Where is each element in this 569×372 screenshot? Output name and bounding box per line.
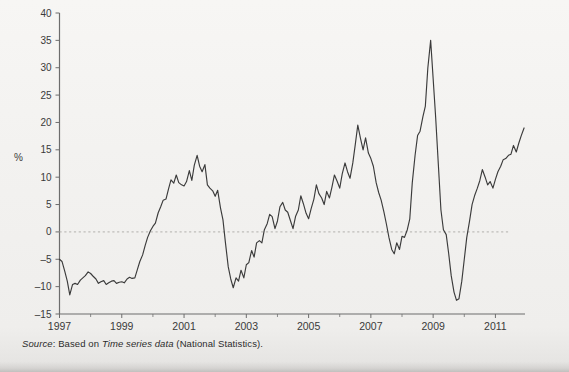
y-tick-label: 30	[40, 62, 52, 73]
data-series-line	[60, 40, 525, 300]
source-label: Source	[22, 338, 53, 349]
x-tick-label: 2001	[172, 320, 196, 330]
x-tick-label: 2003	[235, 320, 259, 330]
source-publisher: (National Statistics).	[174, 338, 263, 349]
y-axis-ticks: –15–10–50510152025303540	[35, 8, 60, 320]
x-tick-label: 1999	[110, 320, 134, 330]
y-tick-label: 15	[40, 144, 52, 155]
y-tick-label: 20	[40, 117, 52, 128]
y-tick-label: 40	[40, 8, 52, 19]
y-tick-label: 35	[40, 35, 52, 46]
y-tick-label: 25	[40, 90, 52, 101]
line-chart-svg: –15–10–50510152025303540 199719992001200…	[0, 0, 569, 330]
source-note: Source: Based on Time series data (Natio…	[22, 338, 263, 349]
figure-page: –15–10–50510152025303540 199719992001200…	[0, 0, 569, 372]
y-tick-label: –5	[40, 254, 52, 265]
chart-canvas: –15–10–50510152025303540 199719992001200…	[0, 0, 569, 330]
x-tick-label: 2005	[297, 320, 321, 330]
y-tick-label: –15	[35, 309, 52, 320]
source-dataset-name: Time series data	[102, 338, 174, 349]
source-sep: : Based on	[53, 338, 102, 349]
x-tick-label: 2009	[421, 320, 445, 330]
y-axis-title: %	[14, 152, 23, 163]
x-tick-label: 2007	[359, 320, 383, 330]
y-tick-label: 10	[40, 172, 52, 183]
x-tick-label: 2011	[484, 320, 507, 330]
y-tick-label: 0	[46, 226, 52, 237]
x-axis-ticks: 19971999200120032005200720092011	[48, 314, 507, 330]
x-tick-label: 1997	[48, 320, 72, 330]
y-tick-label: 5	[46, 199, 52, 210]
y-tick-label: –10	[35, 281, 52, 292]
